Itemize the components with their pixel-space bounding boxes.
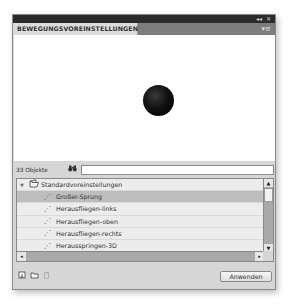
tree-item[interactable]: ⋰ Herausfliegen-oben: [17, 216, 264, 228]
folder-icon: [29, 179, 39, 190]
preview-area: [14, 35, 275, 161]
tree-item-label: Großer-Sprung: [56, 193, 102, 200]
tree-folder-label: Standardvoreinstellungen: [41, 181, 122, 188]
binoculars-icon: [68, 165, 81, 174]
apply-button[interactable]: Anwenden: [220, 271, 272, 282]
panel-menu-icon[interactable]: ▾≡: [262, 24, 271, 34]
tree-item-label: Herausfliegen-links: [56, 205, 116, 212]
motion-preset-icon: ⋰: [44, 193, 53, 201]
search-input[interactable]: [81, 165, 274, 175]
preview-ball: [143, 85, 174, 116]
scrollbar-corner: [263, 251, 273, 261]
delete-icon[interactable]: [40, 271, 52, 281]
close-icon[interactable]: ✕: [266, 15, 271, 23]
tab-motion-presets[interactable]: BEWEGUNGSVOREINSTELLUNGEN: [13, 23, 138, 35]
collapse-icon[interactable]: ◂◂: [256, 15, 262, 23]
tree-item-label: Herausfliegen-oben: [56, 218, 118, 225]
horizontal-scrollbar[interactable]: ◂ ▸: [17, 251, 264, 261]
new-folder-icon[interactable]: [28, 271, 40, 281]
tree-item-label: Herausfliegen-rechts: [56, 230, 122, 237]
new-preset-icon[interactable]: [16, 271, 28, 281]
preset-list: ▼ Standardvoreinstellungen ⋰ Großer-Spru…: [17, 179, 264, 252]
search-row: 33 Objekte: [16, 164, 274, 175]
panel-footer: Anwenden: [16, 265, 274, 287]
motion-presets-panel: ◂◂ ✕ BEWEGUNGSVOREINSTELLUNGEN ▾≡ 33 Obj…: [12, 14, 276, 290]
object-count: 33 Objekte: [16, 167, 68, 173]
expand-toggle-icon[interactable]: ▼: [20, 182, 29, 188]
scroll-up-button[interactable]: ▲: [264, 179, 273, 187]
vertical-scroll-thumb[interactable]: [264, 188, 273, 202]
tree-item[interactable]: ⋰ Herausfliegen-links: [17, 203, 264, 215]
motion-preset-icon: ⋰: [44, 205, 53, 213]
scroll-left-button[interactable]: ◂: [17, 252, 26, 261]
preset-tree: ▼ Standardvoreinstellungen ⋰ Großer-Spru…: [16, 178, 274, 262]
motion-preset-icon: ⋰: [44, 229, 53, 237]
tree-item[interactable]: ⋰ Herausfliegen-rechts: [17, 228, 264, 240]
motion-preset-icon: ⋰: [44, 217, 53, 225]
tree-folder-standard[interactable]: ▼ Standardvoreinstellungen: [17, 179, 264, 191]
panel-titlebar[interactable]: ◂◂ ✕: [13, 15, 275, 23]
tree-item[interactable]: ⋰ Großer-Sprung: [17, 191, 264, 203]
motion-preset-icon: ⋰: [44, 242, 53, 250]
tree-item-label: Herausspringen-3D: [56, 242, 117, 249]
vertical-scrollbar[interactable]: ▲ ▼: [263, 179, 273, 252]
tab-row: BEWEGUNGSVOREINSTELLUNGEN ▾≡: [13, 23, 275, 35]
